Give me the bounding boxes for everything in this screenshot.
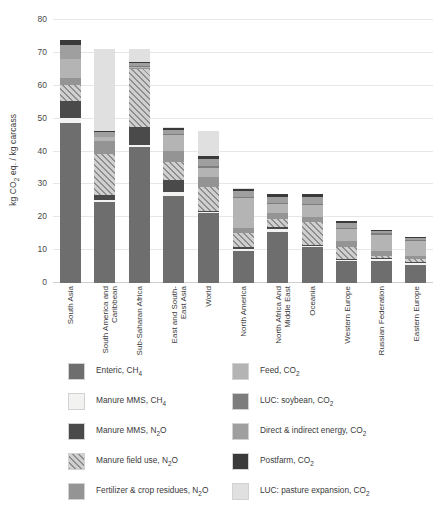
legend-swatch-icon (232, 453, 249, 470)
y-axis-tick-50: 50 (38, 113, 47, 123)
bar-segment-feed-co2 (233, 198, 254, 228)
bar-segment-enteric-ch4 (336, 261, 357, 283)
legend-swatch-icon (232, 393, 249, 410)
legend-label-text: LUC: pasture expansion, CO (260, 485, 366, 495)
legend-swatch-icon (232, 423, 249, 440)
legend-label-subscript: 2 (330, 400, 334, 407)
legend-label: Enteric, CH4 (96, 365, 142, 377)
bar-segment-feed-co2 (267, 204, 288, 213)
legend-label-tail: O (172, 455, 178, 465)
bar-segment-manure-field-use-n2o (336, 247, 357, 260)
legend-item-direct-indirect-energy-co[interactable]: Direct & indirect energy, CO2 (232, 416, 370, 446)
legend-item-luc-soybean-co[interactable]: LUC: soybean, CO2 (232, 386, 370, 416)
x-axis-tick-sub-saharan-africa: Sub-Saharan Africa (135, 286, 144, 358)
legend-label-text: Enteric, CH (96, 365, 138, 375)
bar-segment-manure-field-use-n2o (233, 233, 254, 247)
legend-label: LUC: pasture expansion, CO2 (260, 485, 370, 497)
bar-segment-enteric-ch4 (198, 213, 219, 283)
legend-swatch-icon (68, 393, 85, 410)
legend-item-manure-mms-n[interactable]: Manure MMS, N2O (68, 416, 208, 446)
bar-segment-manure-field-use-n2o (302, 222, 323, 245)
legend-item-postfarm-co[interactable]: Postfarm, CO2 (232, 446, 370, 476)
legend-swatch-icon (68, 363, 85, 380)
y-axis-title-subscript: 2 (13, 178, 20, 182)
legend-label-text: Direct & indirect energy, CO (260, 425, 363, 435)
bar-segment-direct-indirect-energy-co2 (198, 159, 219, 166)
bar-north-africa-and-middle-east[interactable] (267, 194, 288, 283)
legend-swatch-icon (68, 423, 85, 440)
bar-western-europe[interactable] (336, 221, 357, 283)
legend-label-subscript: 2 (363, 430, 367, 437)
legend-item-luc-pasture-expansion-co[interactable]: LUC: pasture expansion, CO2 (232, 476, 370, 506)
bar-east-and-south-east-asia[interactable] (163, 127, 184, 283)
bar-segment-feed-co2 (371, 235, 392, 251)
bar-segment-enteric-ch4 (302, 247, 323, 283)
bar-segment-fertilizer-crop-residues-n2o (198, 177, 219, 188)
bar-oceania[interactable] (302, 194, 323, 283)
legend-label-text: LUC: soybean, CO (260, 395, 330, 405)
legend-item-feed-co[interactable]: Feed, CO2 (232, 356, 370, 386)
x-axis-tick-north-america: North America (239, 286, 248, 358)
y-axis-tick-0: 0 (42, 277, 47, 287)
bar-segment-manure-field-use-n2o (163, 162, 184, 180)
legend-item-fertilizer-crop-residues-n[interactable]: Fertilizer & crop residues, N2O (68, 476, 208, 506)
legend-label-subscript: 2 (296, 370, 300, 377)
bar-segment-manure-field-use-n2o (198, 187, 219, 211)
legend-item-manure-mms-ch[interactable]: Manure MMS, CH4 (68, 386, 208, 416)
legend-column-right: Feed, CO2LUC: soybean, CO2Direct & indir… (232, 356, 370, 506)
bar-segment-enteric-ch4 (163, 196, 184, 283)
legend-label-subscript: 2 (366, 490, 370, 497)
legend-swatch-icon (232, 363, 249, 380)
legend-label-subscript: 4 (138, 370, 142, 377)
y-axis-tick-80: 80 (38, 14, 47, 24)
bar-segment-feed-co2 (60, 59, 81, 78)
bar-eastern-europe[interactable] (405, 237, 426, 283)
x-axis-tick-south-america-and-caribbean: South America and Caribbean (101, 286, 120, 358)
legend-label-text: Feed, CO (260, 365, 296, 375)
legend-label-subscript: 2 (310, 460, 314, 467)
bar-south-asia[interactable] (60, 40, 81, 283)
bar-russian-federation[interactable] (371, 230, 392, 283)
x-axis-tick-western-europe: Western Europe (343, 286, 352, 358)
bar-segment-luc-pasture-expansion-co2 (129, 49, 150, 62)
bar-segment-enteric-ch4 (129, 147, 150, 283)
x-axis-tick-east-and-south-east-asia: East and South-East Asia (170, 286, 189, 358)
legend-item-enteric-ch[interactable]: Enteric, CH4 (68, 356, 208, 386)
x-axis-tick-russian-federation: Russian Federation (377, 286, 386, 358)
bar-segment-enteric-ch4 (267, 232, 288, 283)
bar-segment-enteric-ch4 (94, 202, 115, 283)
bar-segment-fertilizer-crop-residues-n2o (163, 151, 184, 162)
y-axis-tick-20: 20 (38, 211, 47, 221)
legend-label-text: Postfarm, CO (260, 455, 310, 465)
legend-label-tail: O (160, 425, 166, 435)
legend-swatch-icon (232, 483, 249, 500)
bar-segment-enteric-ch4 (60, 123, 81, 283)
bar-south-america-and-caribbean[interactable] (94, 49, 115, 283)
legend-label: Manure MMS, CH4 (96, 395, 166, 407)
bar-north-america[interactable] (233, 188, 254, 283)
bar-segment-manure-field-use-n2o (129, 69, 150, 127)
bar-segment-feed-co2 (405, 241, 426, 256)
legend-label: Manure field use, N2O (96, 455, 178, 467)
bar-segment-feed-co2 (302, 205, 323, 217)
y-axis-title: kg CO2 eq. / kg carcass (6, 90, 22, 230)
bar-world[interactable] (198, 131, 219, 283)
legend-item-manure-field-use-n[interactable]: Manure field use, N2O (68, 446, 208, 476)
chart-legend: Enteric, CH4Manure MMS, CH4Manure MMS, N… (0, 356, 447, 506)
legend-label: Feed, CO2 (260, 365, 300, 377)
bar-sub-saharan-africa[interactable] (129, 49, 150, 283)
gridline-80: 80 (53, 19, 433, 20)
bar-segment-fertilizer-crop-residues-n2o (94, 141, 115, 154)
plot-area: 01020304050607080 (53, 20, 433, 283)
legend-column-left: Enteric, CH4Manure MMS, CH4Manure MMS, N… (68, 356, 208, 506)
chart-figure: kg CO2 eq. / kg carcass 0102030405060708… (0, 0, 447, 509)
bar-segment-manure-field-use-n2o (267, 219, 288, 227)
y-axis-tick-30: 30 (38, 178, 47, 188)
x-axis-tick-south-asia: South Asia (66, 286, 75, 358)
legend-label-text: Manure field use, N (96, 455, 168, 465)
bar-segment-enteric-ch4 (371, 261, 392, 283)
bar-segment-direct-indirect-energy-co2 (60, 45, 81, 59)
y-axis-title-suffix: eq. / kg carcass (8, 114, 18, 178)
legend-label: Postfarm, CO2 (260, 455, 314, 467)
legend-label-text: Fertilizer & crop residues, N (96, 485, 198, 495)
